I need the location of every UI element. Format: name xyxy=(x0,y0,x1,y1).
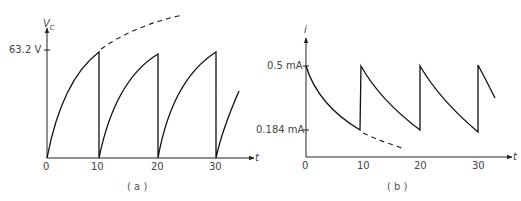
chart-a-y-label: VC xyxy=(43,18,55,32)
chart-a-x-tick-30: 30 xyxy=(209,161,222,172)
chart-b-x-tick-10: 10 xyxy=(357,160,370,171)
chart-b-y-tick-0-5: 0.5 mA xyxy=(267,60,303,71)
chart-a-x-tick-10: 10 xyxy=(91,161,104,172)
chart-b-y-tick-0-184: 0.184 mA xyxy=(256,124,304,135)
chart-b-dashed-curve xyxy=(363,133,405,149)
chart-a-x-label: t xyxy=(255,152,259,163)
chart-a xyxy=(44,15,254,158)
chart-b-x-tick-0: 0 xyxy=(302,160,308,171)
chart-b xyxy=(303,38,512,157)
chart-b-caption: ( b ) xyxy=(387,181,408,192)
chart-a-x-tick-20: 20 xyxy=(151,161,164,172)
chart-a-x-tick-0: 0 xyxy=(43,161,49,172)
charts-canvas xyxy=(0,0,521,201)
chart-b-x-tick-20: 20 xyxy=(414,160,427,171)
chart-b-y-label: i xyxy=(304,24,307,35)
chart-b-solid-curve xyxy=(306,65,495,132)
chart-b-x-tick-30: 30 xyxy=(472,160,485,171)
chart-a-y-tick-63-2: 63.2 V xyxy=(9,44,41,55)
chart-a-solid-curve xyxy=(47,52,239,158)
chart-b-x-label: t xyxy=(513,151,517,162)
chart-a-dashed-curve xyxy=(101,15,183,49)
chart-a-caption: ( a ) xyxy=(127,181,147,192)
